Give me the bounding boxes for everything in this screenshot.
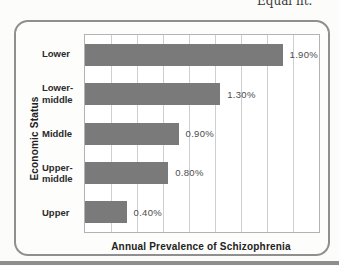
category-labels: LowerLower-middleMiddleUpper-middleUpper xyxy=(42,34,84,233)
category-label: Middle xyxy=(42,114,84,154)
bar xyxy=(85,162,168,184)
category-label: Lower-middle xyxy=(42,74,84,114)
bar-row: 1.30% xyxy=(85,74,319,113)
page-bottom-rule xyxy=(0,261,339,265)
bar-row: 0.80% xyxy=(85,153,319,192)
bar xyxy=(85,44,283,66)
figure-card: Economic Status LowerLower-middleMiddleU… xyxy=(14,20,330,256)
bar-value-label: 1.90% xyxy=(290,49,318,60)
bar-row: 1.90% xyxy=(85,35,319,74)
bar xyxy=(85,201,127,223)
y-axis-title: Economic Status xyxy=(29,59,40,219)
category-label: Lower xyxy=(42,34,84,74)
x-axis-title: Annual Prevalence of Schizophrenia xyxy=(84,241,318,252)
bar xyxy=(85,83,220,105)
category-label: Upper xyxy=(42,193,84,233)
bar-value-label: 1.30% xyxy=(227,89,255,100)
bar-value-label: 0.90% xyxy=(186,128,214,139)
cropped-page-header-text: Equal ht. xyxy=(257,0,312,8)
bar-value-label: 0.40% xyxy=(134,207,162,218)
bar-row: 0.90% xyxy=(85,114,319,153)
bar xyxy=(85,123,179,145)
bar-row: 0.40% xyxy=(85,193,319,232)
plot-area: 1.90%1.30%0.90%0.80%0.40% xyxy=(84,34,320,233)
bar-value-label: 0.80% xyxy=(175,167,203,178)
bar-rows: 1.90%1.30%0.90%0.80%0.40% xyxy=(85,35,319,232)
category-label: Upper-middle xyxy=(42,153,84,193)
chart-body: LowerLower-middleMiddleUpper-middleUpper… xyxy=(42,34,320,233)
